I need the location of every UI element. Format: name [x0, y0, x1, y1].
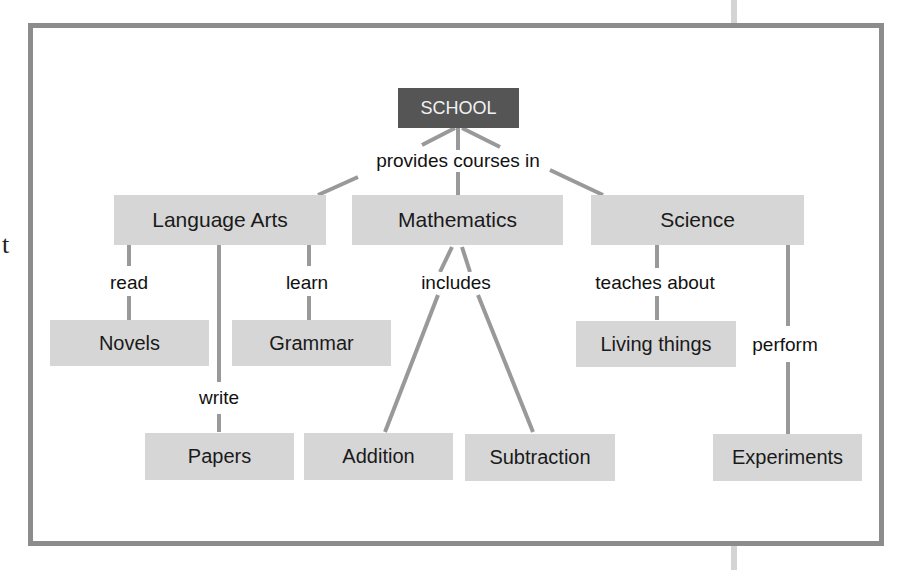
node-experiments: Experiments [713, 434, 862, 481]
node-science-label: Science [660, 208, 735, 232]
link-label-provides-courses-in: provides courses in [374, 150, 542, 172]
node-novels-label: Novels [99, 332, 160, 355]
link-label-includes: includes [419, 272, 493, 294]
link-label-teaches-about: teaches about [593, 272, 716, 294]
node-mathematics: Mathematics [352, 195, 563, 245]
node-language-arts: Language Arts [114, 195, 326, 245]
node-living-things: Living things [576, 321, 736, 367]
node-papers-label: Papers [188, 445, 251, 468]
link-label-learn: learn [284, 272, 330, 294]
node-papers: Papers [145, 433, 294, 480]
node-subtraction-label: Subtraction [489, 446, 590, 469]
node-science: Science [591, 195, 804, 245]
node-grammar: Grammar [232, 320, 391, 366]
node-subtraction: Subtraction [465, 434, 615, 481]
link-label-write: write [197, 387, 241, 409]
node-grammar-label: Grammar [269, 332, 353, 355]
node-addition: Addition [304, 433, 453, 480]
node-addition-label: Addition [342, 445, 414, 468]
node-language-arts-label: Language Arts [152, 208, 287, 232]
link-label-read: read [108, 272, 150, 294]
node-school-label: SCHOOL [420, 98, 496, 119]
node-school: SCHOOL [398, 88, 519, 128]
node-experiments-label: Experiments [732, 446, 843, 469]
link-label-perform: perform [750, 334, 819, 356]
node-mathematics-label: Mathematics [398, 208, 517, 232]
node-living-things-label: Living things [600, 333, 711, 356]
node-novels: Novels [50, 320, 209, 366]
